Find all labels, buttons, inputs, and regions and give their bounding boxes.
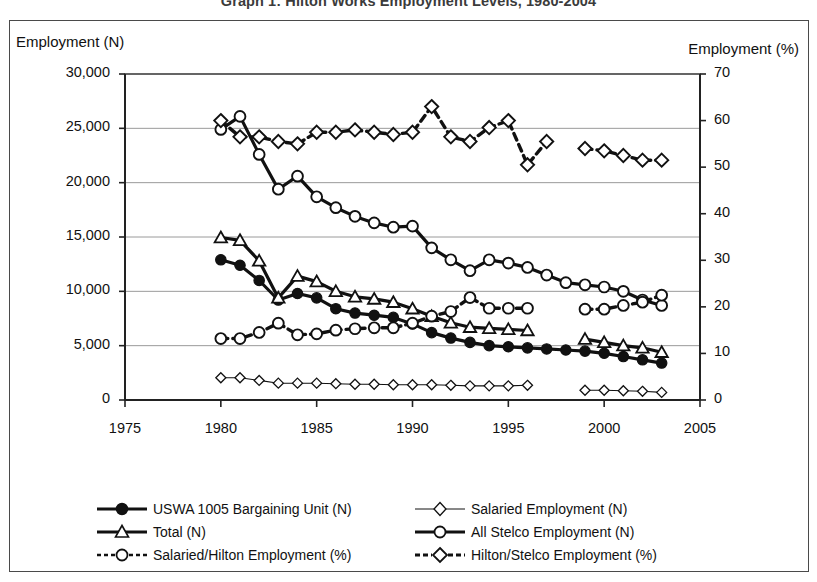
y-tick-label-left: 20,000 <box>10 173 110 189</box>
legend-key-open-diamond-dashed <box>413 545 467 565</box>
data-point-open-circle <box>445 306 456 317</box>
legend-label: Hilton/Stelco Employment (%) <box>471 547 657 563</box>
data-point-open-diamond-small <box>503 381 513 391</box>
data-point-open-diamond-small <box>293 378 303 388</box>
data-point-open-circle <box>465 265 476 276</box>
data-point-open-circle <box>522 262 533 273</box>
data-point-open-circle <box>311 328 322 339</box>
data-point-open-circle <box>426 242 437 253</box>
data-point-open-circle <box>560 277 571 288</box>
legend-item-all-stelco-employment[interactable]: All Stelco Employment (N) <box>413 520 733 543</box>
series-3 <box>215 232 668 357</box>
data-point-open-circle <box>407 221 418 232</box>
data-point-open-diamond-small <box>369 379 379 389</box>
data-point-open-circle <box>369 322 380 333</box>
data-point-open-diamond-small <box>523 380 533 390</box>
data-point-open-circle <box>503 258 514 269</box>
data-point-open-diamond-small <box>235 373 245 383</box>
y-tick-label-left: 0 <box>10 390 110 406</box>
data-point-open-diamond-small <box>657 387 667 397</box>
data-point-filled-circle <box>465 337 475 347</box>
data-point-open-circle <box>235 333 246 344</box>
data-point-open-circle <box>637 297 648 308</box>
x-tick-label: 2005 <box>660 420 740 436</box>
series-line <box>221 116 662 305</box>
data-point-open-diamond <box>636 154 649 167</box>
data-point-filled-circle <box>541 344 551 354</box>
y-tick-label-right: 10 <box>714 343 774 359</box>
data-point-open-circle <box>350 211 361 222</box>
data-point-open-triangle <box>291 270 303 281</box>
data-point-filled-circle <box>446 333 456 343</box>
legend-key-open-diamond-thin <box>413 499 467 519</box>
data-point-open-circle <box>311 191 322 202</box>
data-point-open-circle <box>426 311 437 322</box>
y-tick-label-right: 0 <box>714 390 774 406</box>
data-point-open-circle <box>484 254 495 265</box>
series-layer <box>214 100 668 397</box>
data-point-open-circle <box>254 327 265 338</box>
data-point-open-diamond-small <box>618 386 628 396</box>
data-point-open-circle <box>388 222 399 233</box>
y-tick-label-left: 10,000 <box>10 281 110 297</box>
data-point-open-diamond <box>578 142 591 155</box>
legend-label: Salaried/Hilton Employment (%) <box>153 547 351 563</box>
data-point-open-diamond <box>253 130 266 143</box>
legend-key-open-circle-dashed <box>95 545 149 565</box>
y-tick-label-right: 50 <box>714 157 774 173</box>
data-point-open-circle <box>522 303 533 314</box>
legend-item-salaried-employment[interactable]: Salaried Employment (N) <box>413 497 733 520</box>
data-point-open-diamond <box>540 135 553 148</box>
data-point-filled-circle <box>369 310 379 320</box>
data-point-open-diamond-small <box>273 378 283 388</box>
chart-legend: USWA 1005 Bargaining Unit (N) Salaried E… <box>95 497 745 566</box>
data-point-open-diamond-small <box>408 380 418 390</box>
data-point-filled-circle <box>503 342 513 352</box>
series-2 <box>216 373 667 398</box>
data-point-filled-circle <box>311 293 321 303</box>
data-point-open-circle <box>330 325 341 336</box>
data-point-open-circle <box>541 270 552 281</box>
data-point-open-diamond-small <box>465 381 475 391</box>
series-line <box>221 107 547 165</box>
data-point-filled-circle <box>599 348 609 358</box>
data-point-open-diamond-small <box>312 378 322 388</box>
y-tick-label-right: 70 <box>714 64 774 80</box>
data-point-open-circle <box>330 202 341 213</box>
data-point-open-diamond <box>598 144 611 157</box>
data-point-open-diamond-small <box>580 385 590 395</box>
data-point-open-circle <box>350 323 361 334</box>
data-point-filled-circle <box>426 327 436 337</box>
legend-item-hilton-stelco-percent[interactable]: Hilton/Stelco Employment (%) <box>413 543 733 566</box>
data-point-open-diamond-small <box>599 385 609 395</box>
data-point-open-diamond <box>387 128 400 141</box>
data-point-filled-circle <box>484 340 494 350</box>
data-point-open-circle <box>215 333 226 344</box>
data-point-open-circle <box>235 111 246 122</box>
data-point-filled-circle <box>561 345 571 355</box>
data-point-filled-circle <box>331 304 341 314</box>
data-point-open-circle <box>273 318 284 329</box>
y-tick-label-right: 40 <box>714 204 774 220</box>
data-point-open-diamond-small <box>446 380 456 390</box>
series-6 <box>214 100 668 171</box>
y-tick-label-right: 60 <box>714 111 774 127</box>
data-point-open-circle <box>292 171 303 182</box>
series-line <box>221 260 662 363</box>
data-point-open-diamond-small <box>427 380 437 390</box>
legend-item-uswa-bargaining-unit[interactable]: USWA 1005 Bargaining Unit (N) <box>95 497 395 520</box>
x-tick-label: 1980 <box>181 420 261 436</box>
data-point-open-diamond-small <box>638 386 648 396</box>
data-point-filled-circle <box>254 275 264 285</box>
legend-item-total[interactable]: Total (N) <box>95 520 395 543</box>
legend-label: Salaried Employment (N) <box>471 501 627 517</box>
data-point-filled-circle <box>656 358 666 368</box>
legend-item-salaried-hilton-percent[interactable]: Salaried/Hilton Employment (%) <box>95 543 395 566</box>
data-point-open-diamond-small <box>388 380 398 390</box>
data-point-open-diamond <box>617 149 630 162</box>
legend-label: Total (N) <box>153 524 206 540</box>
data-point-open-diamond <box>329 126 342 139</box>
data-point-filled-circle <box>235 260 245 270</box>
y-tick-label-left: 15,000 <box>10 227 110 243</box>
data-point-open-diamond <box>655 154 668 167</box>
